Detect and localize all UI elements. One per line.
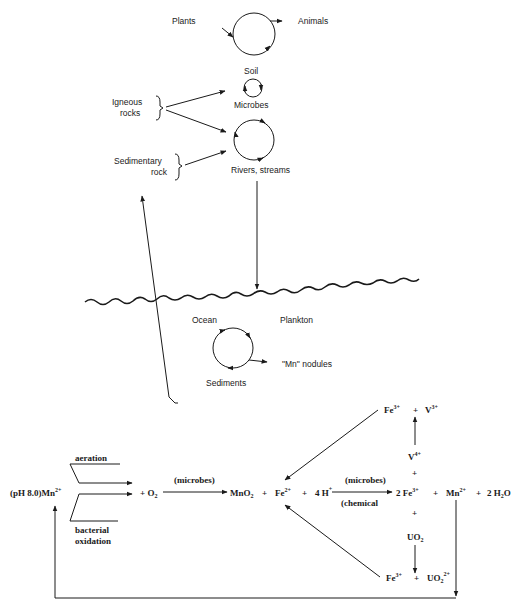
plus-sign: + xyxy=(302,488,307,498)
plus-sign: + xyxy=(476,488,481,498)
label-plants: Plants xyxy=(172,16,196,26)
ocean-surface xyxy=(85,278,419,304)
label-mn-nodules: "Mn" nodules xyxy=(282,359,332,369)
label-ocean: Ocean xyxy=(192,315,217,325)
label-sediments: Sediments xyxy=(206,378,246,388)
label-sedimentary: Sedimentary xyxy=(114,156,162,166)
reactant-fe2: Fe2+ xyxy=(275,487,292,498)
manganese-cycle-diagram: Plants Animals Soil Microbes Igneous roc… xyxy=(0,0,521,613)
soil-microbes-cycle xyxy=(244,79,262,97)
reactant-4h: 4 H+ xyxy=(315,486,333,498)
plus-sign: + xyxy=(262,488,267,498)
rivers-cycle xyxy=(234,120,274,160)
label-chemical: (chemical xyxy=(341,498,378,508)
label-soil: Soil xyxy=(244,66,258,76)
label-rocks: rocks xyxy=(120,108,140,118)
label-animals: Animals xyxy=(298,16,328,26)
label-plankton: Plankton xyxy=(280,315,313,325)
plus-sign: + xyxy=(412,508,417,518)
top-fe3: Fe3+ xyxy=(384,404,401,415)
plus-sign: + xyxy=(413,405,418,415)
mn-return-loop-arrow xyxy=(55,506,456,598)
plus-sign: + xyxy=(433,488,438,498)
sedimentary-brace xyxy=(175,154,182,180)
product-2h2o: 2 H2O xyxy=(487,488,511,499)
plus-sign: + xyxy=(412,468,417,478)
aeration-arrow xyxy=(70,464,132,483)
fe-return-arrow-top xyxy=(285,410,378,480)
plants-animals-cycle xyxy=(222,13,282,55)
label-microbes-2: (microbes) xyxy=(345,475,386,485)
product-mn2: Mn2+ xyxy=(446,487,467,498)
label-microbes: Microbes xyxy=(234,100,268,110)
label-aeration: aeration xyxy=(75,453,107,463)
bottom-fe3: Fe3+ xyxy=(386,572,403,583)
top-v3: V3+ xyxy=(425,404,439,415)
ocean-cycle xyxy=(213,328,267,368)
product-mno2: MnO2 xyxy=(230,488,254,499)
fe-return-arrow-bottom xyxy=(285,505,380,577)
v4-ion: V4+ xyxy=(408,451,422,462)
uo2: UO2 xyxy=(407,532,424,543)
product-2fe3: 2 Fe3+ xyxy=(396,487,419,498)
label-sed-rock: rock xyxy=(151,167,168,177)
label-bacterial: bacterial xyxy=(75,525,109,535)
label-oxidation: oxidation xyxy=(75,536,111,546)
uranyl-ion: UO22+ xyxy=(427,571,451,584)
igneous-brace xyxy=(156,96,163,120)
plus-sign: + xyxy=(414,573,419,583)
reactant-mn2: (pH 8.0)Mn2+ xyxy=(10,487,62,498)
label-igneous: Igneous xyxy=(112,97,142,107)
label-microbes-1: (microbes) xyxy=(174,475,215,485)
reactant-o2: + O2 xyxy=(140,488,157,499)
label-rivers-streams: Rivers, streams xyxy=(231,165,290,175)
